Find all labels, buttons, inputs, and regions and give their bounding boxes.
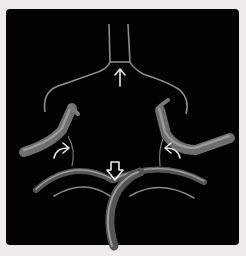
curved-arrow-left-icon <box>54 143 69 158</box>
middle-vessels <box>24 100 230 152</box>
thin-up-arrow-icon <box>115 69 125 86</box>
posterior-vessels <box>36 168 204 246</box>
vessel-illustration <box>0 0 246 256</box>
